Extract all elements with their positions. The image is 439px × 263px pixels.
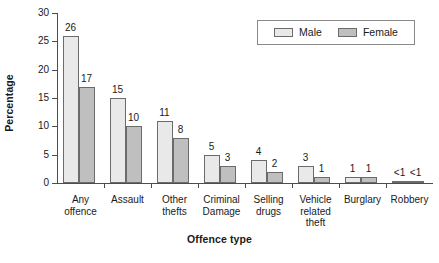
legend-label-female: Female [363, 27, 398, 38]
bar-value-label: 15 [112, 85, 123, 95]
x-tick-separator [339, 183, 340, 188]
bar-male-7 [392, 181, 408, 184]
bar-value-label: 10 [128, 113, 139, 123]
y-tick-label: 0 [43, 178, 49, 188]
bar-value-label: <1 [410, 168, 421, 178]
bar-value-label: 17 [81, 74, 92, 84]
bar-value-label: 1 [366, 164, 372, 174]
bar-male-3 [204, 155, 220, 183]
y-tick-label: 30 [38, 8, 49, 18]
chart-legend: Male Female [257, 20, 415, 45]
bar-value-label: 4 [256, 147, 262, 157]
legend-swatch-male-icon [274, 28, 293, 37]
y-tick-mark [52, 41, 57, 42]
y-tick-mark [52, 70, 57, 71]
y-tick-label: 10 [38, 121, 49, 131]
bar-value-label: 1 [350, 164, 356, 174]
bar-female-1 [126, 126, 142, 183]
bar-male-0 [63, 36, 79, 183]
y-tick-mark [52, 183, 57, 184]
bar-value-label: 3 [225, 153, 231, 163]
x-tick-separator [104, 183, 105, 188]
bar-value-label: 8 [178, 125, 184, 135]
y-tick-mark [52, 13, 57, 14]
category-label: Selling drugs [253, 194, 283, 217]
x-tick-separator [198, 183, 199, 188]
category-label: Assault [111, 194, 144, 206]
bar-male-1 [110, 98, 126, 183]
bar-value-label: 26 [65, 23, 76, 33]
bar-female-3 [220, 166, 236, 183]
x-tick-separator [292, 183, 293, 188]
bar-value-label: 2 [272, 159, 278, 169]
bar-value-label: 11 [159, 108, 169, 118]
bar-value-label: <1 [394, 168, 405, 178]
bar-female-5 [314, 177, 330, 183]
bar-female-7 [408, 181, 424, 184]
category-label: Robbery [391, 194, 429, 206]
bar-value-label: 1 [319, 164, 325, 174]
x-axis-title: Offence type [0, 233, 439, 245]
bar-value-label: 3 [303, 153, 309, 163]
bar-value-label: 5 [209, 142, 215, 152]
bar-female-2 [173, 138, 189, 183]
legend-item-female: Female [338, 27, 398, 38]
x-tick-separator [245, 183, 246, 188]
category-label: Burglary [344, 194, 381, 206]
bar-male-6 [345, 177, 361, 183]
bar-male-5 [298, 166, 314, 183]
bar-chart: Percentage 051015202530 2617151011853423… [0, 0, 439, 263]
x-tick-separator [151, 183, 152, 188]
category-label: Criminal Damage [203, 194, 241, 217]
category-label: Vehicle related theft [299, 194, 331, 229]
bar-male-4 [251, 160, 267, 183]
y-axis-line [57, 13, 58, 183]
x-tick-separator [386, 183, 387, 188]
bar-female-0 [79, 87, 95, 183]
legend-item-male: Male [274, 27, 322, 38]
legend-label-male: Male [299, 27, 322, 38]
y-tick-label: 25 [38, 36, 49, 46]
y-tick-mark [52, 126, 57, 127]
y-tick-label: 15 [38, 93, 49, 103]
bar-male-2 [157, 121, 173, 183]
y-axis-title: Percentage [3, 48, 19, 158]
category-label: Any offence [64, 194, 97, 217]
y-tick-mark [52, 155, 57, 156]
legend-swatch-female-icon [338, 28, 357, 37]
category-label: Other thefts [162, 194, 187, 217]
bar-female-4 [267, 172, 283, 183]
y-tick-label: 5 [43, 150, 49, 160]
y-tick-label: 20 [38, 65, 49, 75]
y-tick-mark [52, 98, 57, 99]
bar-female-6 [361, 177, 377, 183]
